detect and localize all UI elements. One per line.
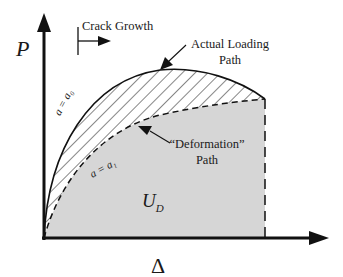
actual-loading-label: Actual Loading Path	[180, 38, 280, 66]
deformation-energy-label: UD	[142, 191, 164, 214]
actual-loading-label-line2: Path	[180, 54, 280, 67]
x-axis-label: Δ	[151, 255, 165, 277]
deformation-label-line2: Path	[168, 154, 246, 167]
y-axis-arrow-icon	[37, 13, 51, 32]
crack-growth-arrow-icon	[98, 36, 111, 46]
crack-growth-label: Crack Growth	[82, 20, 153, 33]
x-axis-arrow-icon	[309, 231, 329, 245]
actual-loading-label-line1: Actual Loading	[180, 38, 280, 51]
energy-symbol: U	[142, 190, 156, 211]
deformation-label-line1: “Deformation”	[168, 138, 246, 151]
y-axis-label: P	[16, 38, 29, 60]
energy-subscript: D	[156, 202, 164, 214]
deformation-path-label: “Deformation” Path	[168, 138, 246, 166]
